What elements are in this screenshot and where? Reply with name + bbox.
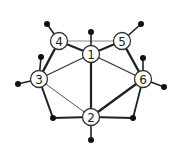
- node-6: 6: [135, 71, 152, 88]
- dot-left-upper: [38, 54, 44, 60]
- dot-right: [161, 84, 167, 90]
- node-6-label: 6: [139, 73, 147, 87]
- node-1-label: 1: [87, 48, 95, 62]
- node-5-label: 5: [118, 35, 126, 49]
- node-3: 3: [31, 71, 48, 88]
- node-5: 5: [114, 33, 131, 50]
- dot-bottom-right: [130, 115, 136, 121]
- dot-5: [138, 21, 144, 27]
- dot-right-upper: [140, 55, 146, 61]
- graph-diagram: 1 2 3 4 5 6: [0, 0, 177, 149]
- node-2: 2: [83, 109, 100, 126]
- node-3-label: 3: [35, 73, 43, 87]
- node-4-label: 4: [55, 35, 63, 49]
- dot-bottom-left: [50, 115, 56, 121]
- node-1: 1: [83, 46, 100, 63]
- node-2-label: 2: [87, 111, 95, 125]
- node-4: 4: [51, 33, 68, 50]
- dot-4: [44, 21, 50, 27]
- dot-bottom: [88, 137, 94, 143]
- dot-left: [15, 81, 21, 87]
- dot-top: [88, 29, 94, 35]
